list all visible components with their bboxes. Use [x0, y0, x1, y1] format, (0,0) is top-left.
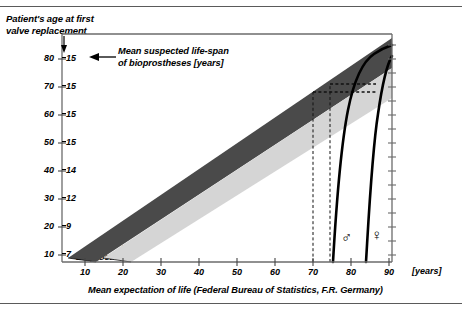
y-tick-label-40: 40	[32, 165, 54, 175]
lifespan-dash-80	[62, 57, 66, 58]
x-tick-label-20: 20	[111, 267, 135, 277]
lifespan-label-at-80: 15	[66, 53, 88, 63]
x-tick-label-40: 40	[187, 267, 211, 277]
callout-arrowhead-icon	[89, 53, 99, 61]
lifespan-label-at-60: 15	[66, 109, 88, 119]
x-tick-label-90: 90	[377, 267, 401, 277]
x-tick-label-60: 60	[263, 267, 287, 277]
lifespan-dash-20	[62, 225, 66, 226]
lifespan-dash-40	[62, 169, 66, 170]
y-tick-label-50: 50	[32, 137, 54, 147]
band-dark-bioprosthesis-1	[68, 38, 392, 262]
y-tick-label-60: 60	[32, 109, 54, 119]
y-tick-label-70: 70	[32, 81, 54, 91]
x-tick-label-50: 50	[225, 267, 249, 277]
figure-container: Patient's age at first valve replacement…	[0, 0, 462, 313]
x-tick-label-70: 70	[301, 267, 325, 277]
y-tick-label-10: 10	[32, 249, 54, 259]
x-tick-label-30: 30	[149, 267, 173, 277]
x-tick-label-10: 10	[73, 267, 97, 277]
lifespan-label-at-70: 15	[66, 81, 88, 91]
lifespan-dash-60	[62, 113, 66, 114]
lifespan-label-at-10: 7	[66, 249, 88, 259]
y-tick-label-20: 20	[32, 221, 54, 231]
x-tick-label-80: 80	[339, 267, 363, 277]
y-tick-label-80: 80	[32, 53, 54, 63]
lifespan-label-at-30: 12	[66, 193, 88, 203]
lifespan-label-at-50: 15	[66, 137, 88, 147]
band-light-bioprosthesis-2	[103, 68, 392, 262]
y-tick-label-30: 30	[32, 193, 54, 203]
lifespan-label-at-40: 14	[66, 165, 88, 175]
lifespan-dash-30	[62, 197, 66, 198]
lifespan-dash-10	[62, 253, 66, 254]
lifespan-dash-70	[62, 85, 66, 86]
lifespan-dash-50	[62, 141, 66, 142]
lifespan-label-at-20: 9	[66, 221, 88, 231]
